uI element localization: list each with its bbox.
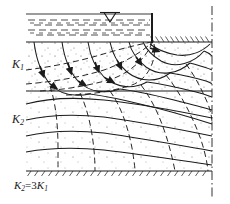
- k2-symbol: K: [12, 112, 20, 126]
- label-permeability-relation: K2=3K1: [14, 179, 48, 193]
- k2-subscript: 2: [20, 118, 24, 127]
- k1-subscript: 1: [20, 63, 24, 72]
- label-k1: K1: [12, 57, 24, 72]
- seepage-flow-net-figure: K1 K2 K2=3K1: [0, 0, 230, 204]
- impervious-boundary-hatching: [28, 171, 207, 176]
- ratio-rhs-subscript: 1: [44, 184, 48, 193]
- flow-net-drawing: [0, 0, 230, 204]
- downstream-ground-hatching: [151, 37, 210, 43]
- reservoir-water: [26, 14, 152, 35]
- k1-symbol: K: [12, 57, 20, 71]
- label-k2: K2: [12, 112, 24, 127]
